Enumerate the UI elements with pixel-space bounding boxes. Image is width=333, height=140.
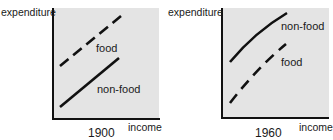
year-label: 1900 xyxy=(88,126,115,140)
y-axis xyxy=(52,8,54,120)
chart-panel-1960: expenditure income 1960 non-food food xyxy=(165,0,329,140)
non-food-series-label: non-food xyxy=(280,20,325,33)
chart-panel-1900: expenditure income 1900 food non-food xyxy=(0,0,165,140)
non-food-series-label: non-food xyxy=(96,83,141,96)
non-food-curve-solid xyxy=(230,13,287,62)
y-axis-label: expenditure xyxy=(168,6,223,18)
food-series-label: food xyxy=(280,56,303,69)
x-axis xyxy=(221,117,329,119)
x-axis-label: income xyxy=(128,121,162,133)
food-series-label: food xyxy=(95,42,118,55)
y-axis xyxy=(221,8,223,119)
y-axis-label: expenditure xyxy=(1,6,56,18)
x-axis-label: income xyxy=(299,121,333,133)
year-label: 1960 xyxy=(255,126,282,140)
food-line-dashed xyxy=(60,16,121,66)
x-axis xyxy=(52,118,160,120)
